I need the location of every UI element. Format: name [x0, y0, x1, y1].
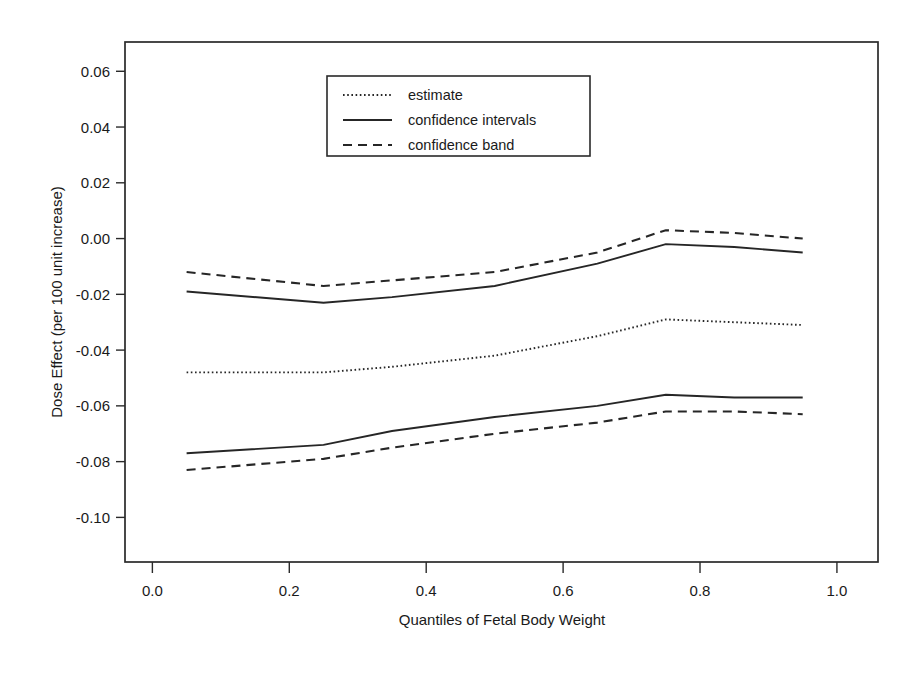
y-tick-label: -0.04: [76, 342, 110, 359]
x-tick-label: 0.8: [690, 582, 711, 599]
y-axis-title: Dose Effect (per 100 unit increase): [48, 186, 65, 418]
y-tick-label: -0.10: [76, 509, 110, 526]
x-tick-label: 1.0: [826, 582, 847, 599]
chart-legend: estimateconfidence intervalsconfidence b…: [327, 76, 590, 156]
x-tick-label: 0.6: [553, 582, 574, 599]
legend-label: confidence band: [408, 137, 514, 153]
legend-label: confidence intervals: [408, 112, 536, 128]
chart-figure: 0.060.040.020.00-0.02-0.04-0.06-0.08-0.1…: [0, 0, 919, 676]
y-tick-label: -0.02: [76, 286, 110, 303]
y-tick-label: 0.00: [81, 230, 110, 247]
x-tick-label: 0.4: [416, 582, 437, 599]
y-tick-label: 0.04: [81, 119, 110, 136]
y-tick-label: 0.02: [81, 174, 110, 191]
quantile-dose-effect-chart: 0.060.040.020.00-0.02-0.04-0.06-0.08-0.1…: [0, 0, 919, 676]
x-axis-title: Quantiles of Fetal Body Weight: [399, 611, 606, 628]
x-tick-label: 0.2: [279, 582, 300, 599]
y-tick-label: -0.08: [76, 453, 110, 470]
y-tick-label: -0.06: [76, 397, 110, 414]
legend-label: estimate: [408, 87, 463, 103]
y-tick-label: 0.06: [81, 63, 110, 80]
x-tick-label: 0.0: [142, 582, 163, 599]
